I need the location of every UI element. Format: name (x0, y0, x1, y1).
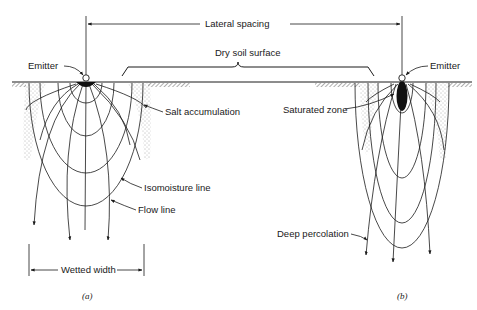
deep-percolation-label: Deep percolation (277, 229, 349, 239)
wetted-width-label: Wetted width (61, 265, 116, 275)
isomoisture-line-label: Isomoisture line (144, 183, 211, 193)
emitter-b-icon (399, 75, 405, 81)
dry-soil-surface-label: Dry soil surface (215, 48, 280, 58)
panel-b-caption: (b) (397, 292, 408, 301)
panel-a-caption: (a) (82, 292, 93, 301)
flow-line-label: Flow line (138, 205, 176, 215)
saturated-zone-label: Saturated zone (283, 105, 347, 115)
dry-soil-brace (122, 62, 374, 76)
lateral-spacing-label: Lateral spacing (205, 19, 269, 29)
emitter-b-label: Emitter (430, 61, 460, 71)
saturated-zone-b (397, 81, 408, 111)
emitter-a-label: Emitter (28, 61, 58, 71)
emitter-a-icon (83, 75, 89, 81)
wet-zone-a (76, 82, 96, 87)
salt-accumulation-label: Salt accumulation (165, 107, 240, 117)
flow-lines-a (26, 84, 146, 240)
